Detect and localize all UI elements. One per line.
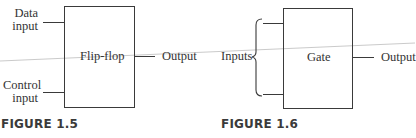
gate-input-line-bottom (263, 94, 283, 95)
flip-flop-output-label: Output (162, 50, 197, 63)
figure-1-5-caption: FIGURE 1.5 (1, 117, 78, 131)
data-input-line (43, 22, 64, 23)
data-input-label: Data input (8, 7, 38, 33)
control-input-label: Control input (3, 79, 38, 105)
control-input-label-line2: input (3, 92, 38, 105)
flip-flop-label: Flip-flop (80, 50, 124, 63)
gate-output-line (353, 57, 374, 58)
data-input-label-line2: input (8, 20, 38, 33)
control-input-line (43, 92, 64, 93)
gate-label: Gate (307, 51, 331, 64)
flip-flop-output-line (135, 56, 155, 57)
gate-output-label: Output (381, 51, 416, 64)
inputs-label: Inputs (221, 50, 252, 63)
gate-input-line-top (263, 23, 283, 24)
figure-1-6-caption: FIGURE 1.6 (221, 117, 298, 131)
